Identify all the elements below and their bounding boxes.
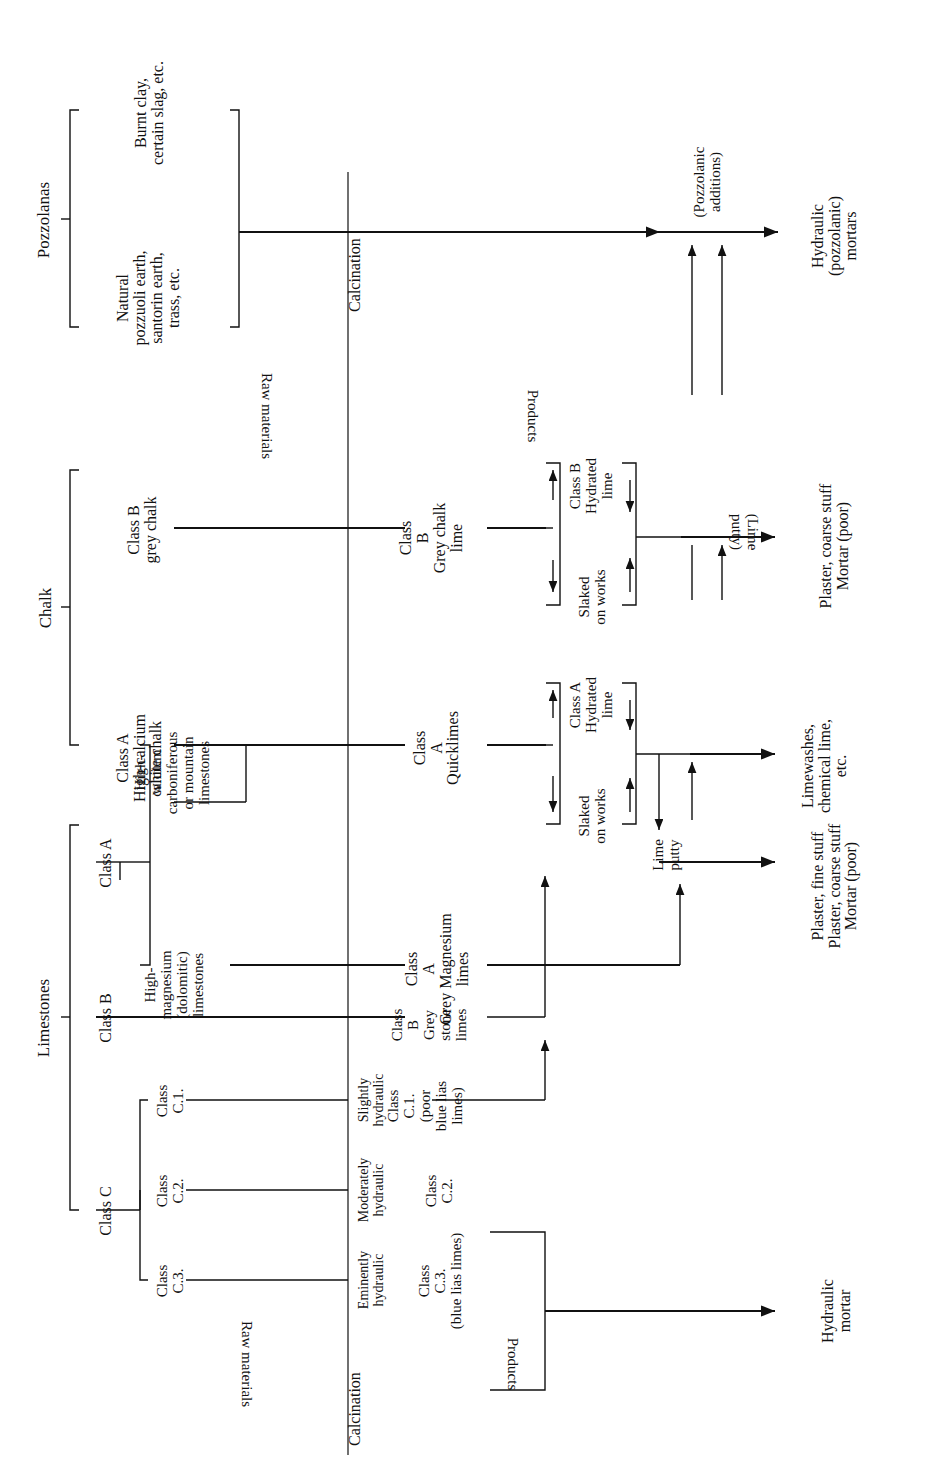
group-label-limestones: Limestones — [35, 953, 59, 1083]
raw-pozzolana-natural: Natural pozzuoli earth, santorin earth, … — [108, 153, 190, 443]
product-class-c1: Class C.1. (poor blue lias limes) — [375, 1046, 477, 1166]
output-plaster-coarse-mortar-poor: Plaster, coarse stuff Mortar (poor) — [814, 446, 856, 646]
raw-limestone-class-c3: Class C.3. — [150, 1241, 192, 1321]
output-hydraulic-pozzolanic-mortars: Hydraulic (pozzolanic) mortars — [804, 161, 866, 311]
column-label-raw-materials-top: Raw materials — [252, 336, 274, 496]
raw-limestone-class-c: Class C — [95, 1166, 117, 1256]
hydraulicity-eminently: Eminently hydraulic — [352, 1238, 392, 1322]
process-pozzolanic-additions: (Pozzolanic additions) — [687, 117, 729, 247]
raw-limestone-high-magnesium: High- magnesium (dolomitic) limestones — [134, 910, 216, 1060]
diagram-canvas: Raw materials Products Raw materials Pro… — [0, 0, 935, 1483]
raw-limestone-class-b: Class B — [95, 973, 117, 1063]
raw-chalk-class-b: Class B grey chalk — [122, 430, 164, 630]
raw-limestone-high-calcium: High- calcium carboniferous or mountain … — [123, 688, 223, 858]
product-class-b-grey-chalk-lime: Class B Grey chalk lime — [389, 478, 475, 598]
axis-label-calcination-bottom: Calcination — [347, 1339, 369, 1479]
process-lime-putty-upper: (Lime putty) — [723, 487, 765, 577]
column-label-products-bottom: Products — [498, 1294, 520, 1434]
process-lime-putty: Lime putty — [646, 813, 688, 897]
process-class-b-slaked-on-works: Slaked on works — [572, 555, 614, 639]
raw-limestone-class-a: Class A — [95, 818, 117, 908]
product-class-a-quicklimes: Class A Quicklimes — [404, 693, 470, 803]
column-label-products-top: Products — [518, 346, 540, 486]
raw-limestone-class-c1: Class C.1. — [150, 1061, 192, 1141]
output-plaster-fine-coarse-mortar: Plaster, fine stuff Plaster, coarse stuf… — [804, 781, 866, 991]
axis-label-calcination-top: Calcination — [347, 205, 369, 345]
process-class-a-hydrated-lime: Class A Hydrated lime — [561, 645, 623, 765]
output-hydraulic-mortar: Hydraulic mortar — [816, 1246, 858, 1376]
process-class-b-hydrated-lime: Class B Hydrated lime — [561, 426, 623, 546]
raw-limestone-class-c2: Class C.2. — [150, 1151, 192, 1231]
column-label-raw-materials-bottom: Raw materials — [232, 1284, 254, 1444]
product-class-c3: Class C.3. (blue lias limes) — [410, 1206, 472, 1356]
group-label-pozzolanas: Pozzolanas — [35, 160, 59, 280]
group-label-chalk: Chalk — [37, 568, 61, 648]
process-class-a-slaked-on-works: Slaked on works — [572, 774, 614, 858]
